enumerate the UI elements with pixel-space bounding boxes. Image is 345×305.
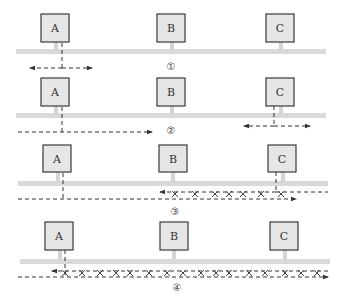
node-a: A bbox=[45, 222, 73, 250]
svg-text:C: C bbox=[276, 22, 284, 35]
node-a: A bbox=[43, 145, 71, 172]
panel-label: ① bbox=[167, 61, 176, 72]
svg-text:B: B bbox=[167, 22, 175, 35]
node-b: B bbox=[159, 145, 187, 172]
svg-text:A: A bbox=[52, 153, 62, 166]
panel-2: A B C ② bbox=[16, 78, 326, 136]
panel-3: A B C ③ bbox=[18, 145, 328, 217]
panel-label: ② bbox=[167, 125, 176, 136]
svg-text:A: A bbox=[50, 22, 60, 35]
svg-text:C: C bbox=[280, 230, 288, 243]
panel-label: ④ bbox=[173, 282, 182, 293]
node-a: A bbox=[41, 78, 69, 106]
node-b: B bbox=[157, 78, 185, 106]
node-c: C bbox=[266, 14, 294, 42]
svg-text:A: A bbox=[54, 230, 64, 243]
svg-text:B: B bbox=[167, 86, 175, 99]
panel-4: A B C ④ bbox=[18, 222, 330, 293]
csma-cd-collision-diagram: A B C ① A B C ② A B C bbox=[0, 0, 345, 305]
node-c: C bbox=[270, 222, 298, 250]
svg-text:B: B bbox=[169, 153, 177, 166]
node-b: B bbox=[160, 222, 188, 250]
panel-1: A B C ① bbox=[16, 14, 326, 72]
node-b: B bbox=[157, 14, 185, 42]
svg-text:C: C bbox=[276, 86, 284, 99]
node-a: A bbox=[41, 14, 69, 42]
node-c: C bbox=[266, 78, 294, 106]
panel-label: ③ bbox=[171, 206, 180, 217]
svg-text:A: A bbox=[50, 86, 60, 99]
node-c: C bbox=[268, 145, 296, 172]
svg-text:B: B bbox=[170, 230, 178, 243]
svg-text:C: C bbox=[278, 153, 286, 166]
